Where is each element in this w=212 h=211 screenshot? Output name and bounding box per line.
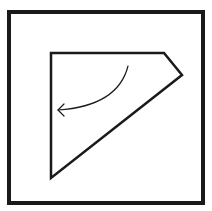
outer-frame	[9, 12, 203, 203]
diagram-canvas	[0, 0, 212, 211]
rotation-arrow-curve	[58, 66, 128, 110]
inner-polygon	[51, 53, 182, 178]
